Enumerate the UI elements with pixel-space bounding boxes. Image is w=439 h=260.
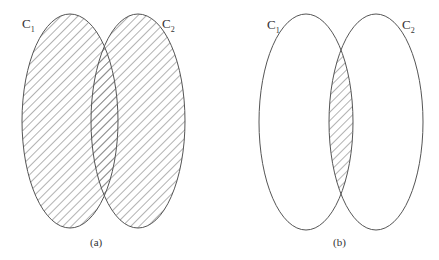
venn-diagrams (0, 0, 439, 260)
intersection-region-b (329, 14, 423, 230)
label-c1-b: C1 (267, 17, 280, 35)
label-c2-b: C2 (402, 17, 415, 35)
set-c2-ellipse-a (91, 14, 185, 228)
label-c1-a: C1 (22, 16, 35, 34)
panel-a-union (22, 14, 185, 228)
panel-b-intersection (259, 14, 423, 230)
label-c2-a: C2 (162, 16, 175, 34)
caption-a: (a) (90, 236, 102, 248)
caption-b: (b) (333, 236, 346, 248)
